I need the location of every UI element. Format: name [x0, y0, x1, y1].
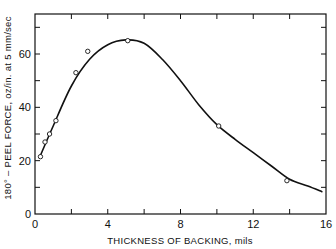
peel-force-chart: 0481216 0204060 THICKNESS OF BACKING, mi…: [0, 0, 336, 249]
x-axis-title: THICKNESS OF BACKING, mils: [107, 235, 253, 246]
data-point-marker: [54, 118, 58, 122]
x-tick-label: 12: [247, 218, 259, 230]
x-tick-label: 8: [177, 218, 183, 230]
y-axis-title: 180° – PEEL FORCE, oz/in. at 5 mm/sec: [2, 16, 13, 200]
plot-frame: [35, 14, 326, 214]
data-point-marker: [47, 132, 51, 136]
data-point-marker: [216, 124, 220, 128]
y-tick-label: 60: [19, 48, 31, 60]
data-point-marker: [285, 178, 289, 182]
fitted-curve: [41, 40, 323, 192]
y-tick-label: 0: [25, 208, 31, 220]
y-tick-labels: 0204060: [19, 48, 31, 220]
x-tick-label: 0: [32, 218, 38, 230]
data-point-marker: [126, 38, 130, 42]
data-point-marker: [74, 70, 78, 74]
x-tick-label: 4: [105, 218, 111, 230]
x-tick-label: 16: [320, 218, 332, 230]
data-point-marker: [86, 49, 90, 53]
axis-ticks: [35, 14, 326, 214]
data-point-marker: [38, 154, 42, 158]
y-tick-label: 20: [19, 155, 31, 167]
y-tick-label: 40: [19, 101, 31, 113]
x-tick-labels: 0481216: [32, 218, 332, 230]
data-point-marker: [43, 140, 47, 144]
